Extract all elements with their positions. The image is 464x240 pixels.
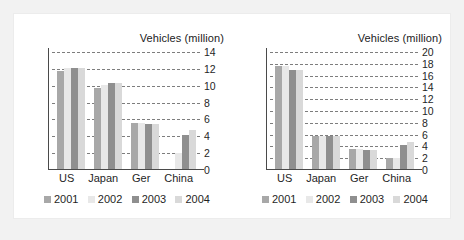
y-axis-tick-label: 2 <box>204 147 210 159</box>
y-axis-tick-labels-left: 02468101214 <box>204 52 230 170</box>
bar-group <box>349 52 377 170</box>
bar-group <box>386 52 414 170</box>
y-axis-tick-label: 8 <box>422 117 428 129</box>
x-axis-tick-label: US <box>277 172 292 184</box>
bar[interactable] <box>296 70 303 170</box>
bar[interactable] <box>312 136 319 170</box>
y-axis-line <box>48 48 49 170</box>
y-axis-tick-label: 0 <box>204 164 210 176</box>
y-axis-tick-label: 4 <box>422 140 428 152</box>
legend-label: 2004 <box>403 193 427 205</box>
x-axis-line <box>48 169 204 170</box>
y-axis-tick-label: 0 <box>422 164 428 176</box>
bar[interactable] <box>152 124 159 170</box>
legend-swatch-icon <box>262 196 269 203</box>
bar[interactable] <box>289 70 296 170</box>
x-axis-tick-labels-left: USJapanGerChina <box>52 172 200 188</box>
y-axis-tick-label: 4 <box>204 130 210 142</box>
y-axis-tick-label: 10 <box>204 80 216 92</box>
legend-item[interactable]: 2003 <box>350 193 384 205</box>
x-axis-tick-label: China <box>164 172 193 184</box>
bar[interactable] <box>57 71 64 170</box>
bar[interactable] <box>349 149 356 170</box>
legend-item[interactable]: 2001 <box>44 193 78 205</box>
bar[interactable] <box>182 135 189 170</box>
figure-panel: Vehicles (million) 02468101214 USJapanGe… <box>14 14 450 218</box>
y-axis-tick-label: 10 <box>422 105 434 117</box>
legend-right: 2001200220032004 <box>262 190 428 208</box>
legend-label: 2002 <box>98 193 122 205</box>
legend-swatch-icon <box>350 196 357 203</box>
bar[interactable] <box>175 153 182 170</box>
bar-group <box>57 52 85 170</box>
legend-swatch-icon <box>88 196 95 203</box>
bar[interactable] <box>108 83 115 170</box>
legend-item[interactable]: 2001 <box>262 193 296 205</box>
bar-groups-right <box>270 52 418 170</box>
bar[interactable] <box>400 145 407 170</box>
bar-groups-left <box>52 52 200 170</box>
legend-label: 2001 <box>54 193 78 205</box>
bar[interactable] <box>407 142 414 170</box>
bar[interactable] <box>356 149 363 170</box>
figure-page: Vehicles (million) 02468101214 USJapanGe… <box>0 0 464 240</box>
y-axis-tick-label: 14 <box>204 46 216 58</box>
bar[interactable] <box>138 123 145 170</box>
y-axis-tick-label: 14 <box>422 81 434 93</box>
y-axis-tick-label: 12 <box>422 93 434 105</box>
x-axis-tick-label: Japan <box>88 172 118 184</box>
plot-area-left <box>52 52 200 170</box>
chart-title: Vehicles (million) <box>140 32 224 44</box>
legend-item[interactable]: 2002 <box>88 193 122 205</box>
x-axis-tick-labels-right: USJapanGerChina <box>270 172 418 188</box>
bar[interactable] <box>282 66 289 170</box>
legend-item[interactable]: 2004 <box>175 193 209 205</box>
legend-swatch-icon <box>306 196 313 203</box>
legend-item[interactable]: 2002 <box>306 193 340 205</box>
x-axis-tick-label: Ger <box>132 172 150 184</box>
y-axis-tick-label: 18 <box>422 58 434 70</box>
bar[interactable] <box>189 130 196 170</box>
legend-item[interactable]: 2003 <box>132 193 166 205</box>
plot-area-right <box>270 52 418 170</box>
y-axis-tick-label: 6 <box>422 129 428 141</box>
y-axis-tick-label: 12 <box>204 63 216 75</box>
bar[interactable] <box>319 136 326 170</box>
y-axis-tick-label: 6 <box>204 113 210 125</box>
y-axis-line <box>266 48 267 170</box>
legend-swatch-icon <box>175 196 182 203</box>
bar[interactable] <box>78 68 85 170</box>
legend-item[interactable]: 2004 <box>393 193 427 205</box>
bar-group <box>168 52 196 170</box>
bar[interactable] <box>275 66 282 170</box>
bar[interactable] <box>101 85 108 170</box>
bar[interactable] <box>115 83 122 170</box>
x-axis-line <box>266 169 422 170</box>
x-axis-tick-label: US <box>59 172 74 184</box>
bar-group <box>312 52 340 170</box>
bar[interactable] <box>326 136 333 170</box>
bar[interactable] <box>131 123 138 170</box>
bar[interactable] <box>363 150 370 170</box>
legend-swatch-icon <box>44 196 51 203</box>
bar[interactable] <box>71 68 78 170</box>
bar-group <box>275 52 303 170</box>
bar[interactable] <box>145 124 152 170</box>
bar[interactable] <box>64 68 71 170</box>
legend-left: 2001200220032004 <box>44 190 210 208</box>
bar-group <box>131 52 159 170</box>
x-axis-tick-label: China <box>382 172 411 184</box>
legend-swatch-icon <box>393 196 400 203</box>
legend-swatch-icon <box>132 196 139 203</box>
bar-group <box>94 52 122 170</box>
chart-title: Vehicles (million) <box>358 32 442 44</box>
bar[interactable] <box>94 88 101 170</box>
legend-label: 2002 <box>316 193 340 205</box>
y-axis-tick-label: 20 <box>422 46 434 58</box>
y-axis-tick-label: 16 <box>422 70 434 82</box>
bar[interactable] <box>370 150 377 170</box>
legend-label: 2003 <box>142 193 166 205</box>
bar[interactable] <box>333 136 340 170</box>
legend-label: 2004 <box>185 193 209 205</box>
legend-label: 2003 <box>360 193 384 205</box>
